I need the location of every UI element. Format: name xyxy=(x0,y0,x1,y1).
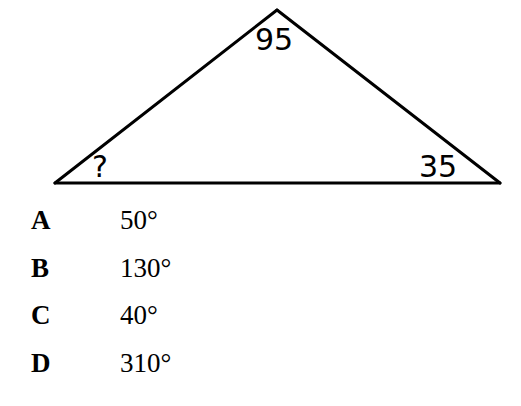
option-value-c: 40° xyxy=(120,300,158,330)
triangle-left-edge xyxy=(55,10,277,183)
option-letter-a: A xyxy=(31,205,51,235)
answer-options-list: A 50° B 130° C 40° D 310° xyxy=(0,196,521,406)
option-value-d: 310° xyxy=(120,348,171,378)
angle-label-apex: 95 xyxy=(255,25,293,55)
option-value-a: 50° xyxy=(120,205,158,235)
option-row-b[interactable]: B 130° xyxy=(0,253,521,300)
triangle-figure: 95 ? 35 xyxy=(0,0,521,196)
option-letter-c: C xyxy=(31,300,51,330)
option-row-a[interactable]: A 50° xyxy=(0,205,521,252)
option-row-d[interactable]: D 310° xyxy=(0,348,521,395)
angle-label-right: 35 xyxy=(419,152,457,182)
worksheet-page: 95 ? 35 A 50° B 130° C 40° D 310° xyxy=(0,0,521,406)
option-letter-d: D xyxy=(31,348,51,378)
option-row-c[interactable]: C 40° xyxy=(0,300,521,347)
angle-label-unknown: ? xyxy=(92,152,108,182)
triangle-right-edge xyxy=(277,10,500,183)
option-letter-b: B xyxy=(31,253,49,283)
option-value-b: 130° xyxy=(120,253,171,283)
